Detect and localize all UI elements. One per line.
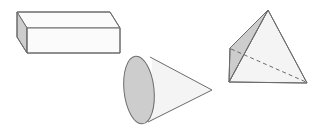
geometry-figure xyxy=(0,0,328,133)
rectangular-prism xyxy=(17,12,120,53)
triangular-pyramid xyxy=(229,10,307,83)
prism-top-face xyxy=(17,12,120,28)
prism-front-face xyxy=(27,28,120,53)
cone xyxy=(121,55,212,126)
cone-lateral-surface xyxy=(150,58,212,122)
solids-illustration xyxy=(0,0,328,133)
